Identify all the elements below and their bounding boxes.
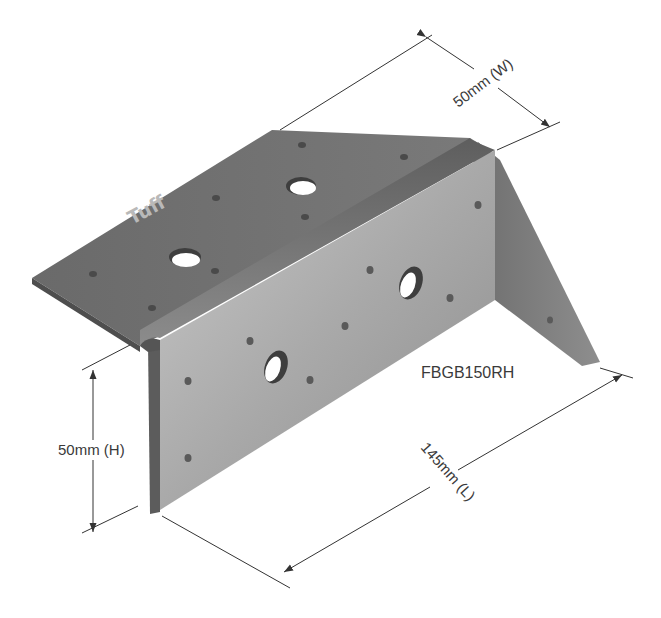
large-hole	[290, 181, 316, 195]
bracket-side-edge	[148, 340, 160, 514]
large-hole	[172, 253, 200, 267]
bracket-diagram: Tuff 50mm (W) 50mm (H) 145mm (L) FBGB150…	[0, 0, 661, 618]
height-label: 50mm (H)	[58, 441, 125, 458]
dimension-height: 50mm (H)	[58, 345, 138, 533]
model-label: FBGB150RH	[421, 364, 514, 381]
width-label: 50mm (W)	[450, 55, 516, 111]
length-label: 145mm (L)	[418, 439, 479, 504]
